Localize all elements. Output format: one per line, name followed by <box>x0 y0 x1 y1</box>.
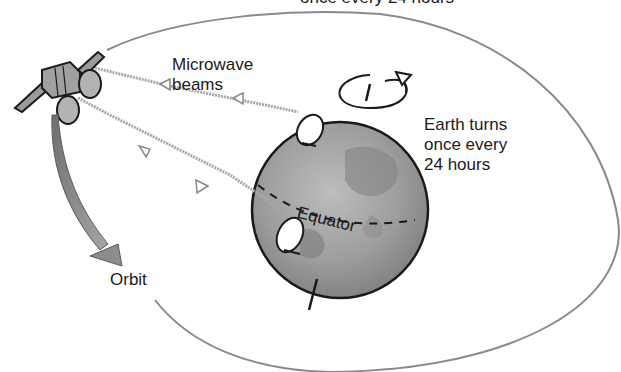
earth-turns-line-2: once every <box>424 135 507 155</box>
microwave-beams-label: Microwave beams <box>172 55 253 95</box>
geostationary-orbit-diagram <box>0 0 621 372</box>
microwave-beams-line-1: Microwave <box>172 55 253 75</box>
earth <box>252 122 428 298</box>
earth-turns-line-3: 24 hours <box>424 155 507 175</box>
earth-turns-label: Earth turns once every 24 hours <box>424 115 507 175</box>
satellite-icon <box>15 52 104 124</box>
orbit-label: Orbit <box>110 270 147 290</box>
microwave-beams-line-2: beams <box>172 75 253 95</box>
orbit-direction-arrow-icon <box>52 115 122 266</box>
rotation-arrow-icon <box>339 72 411 108</box>
earth-turns-line-1: Earth turns <box>424 115 507 135</box>
microwave-beam-lower <box>78 98 280 210</box>
